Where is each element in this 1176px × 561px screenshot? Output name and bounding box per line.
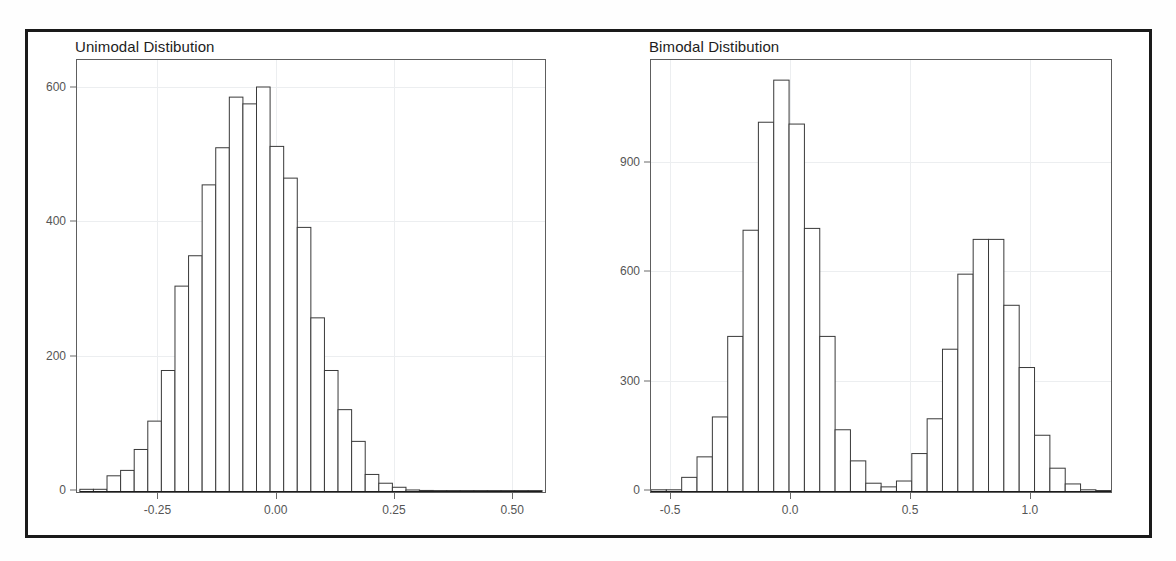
y-tick-label: 0	[30, 483, 66, 497]
y-tick-mark	[70, 86, 76, 87]
x-tick-mark	[512, 493, 513, 499]
histogram-bar	[161, 371, 175, 493]
chart-title-bimodal: Bimodal Distibution	[649, 38, 779, 55]
bar-group	[651, 80, 1111, 492]
y-tick-label: 400	[30, 214, 66, 228]
histogram-bar	[927, 419, 942, 492]
histogram-bar	[1050, 468, 1065, 492]
x-tick-mark	[1030, 493, 1031, 499]
panel-unimodal: Unimodal Distibution 0200400600 -0.250.0…	[28, 32, 590, 535]
histogram-bar	[257, 87, 271, 492]
figure-outer-frame: Unimodal Distibution 0200400600 -0.250.0…	[25, 29, 1152, 538]
histogram-bar	[743, 230, 758, 492]
x-tick-mark	[276, 493, 277, 499]
histogram-bar	[311, 318, 325, 492]
histogram-bar	[365, 474, 379, 492]
histogram-bar	[1035, 435, 1050, 492]
histogram-bar	[912, 454, 927, 492]
plot-area-unimodal	[76, 59, 546, 493]
histogram-bar	[942, 349, 957, 492]
y-tick-mark	[644, 162, 650, 163]
histogram-bar	[1019, 368, 1034, 492]
histogram-bar	[973, 239, 988, 492]
histogram-bar	[270, 146, 284, 492]
y-tick-label: 200	[30, 349, 66, 363]
histogram-bar	[820, 336, 835, 492]
histogram-bar	[216, 148, 230, 492]
y-tick-mark	[644, 380, 650, 381]
y-tick-label: 900	[604, 155, 640, 169]
histogram-bar	[866, 483, 881, 492]
y-tick-mark	[644, 490, 650, 491]
x-tick-label: 1.0	[1022, 503, 1039, 517]
histogram-bar	[1065, 484, 1080, 492]
y-tick-mark	[70, 355, 76, 356]
histogram-bar	[804, 228, 819, 492]
x-tick-label: 0.50	[501, 503, 524, 517]
chart-title-unimodal: Unimodal Distibution	[75, 38, 215, 55]
histogram-bar	[697, 457, 712, 492]
x-tick-label: -0.5	[660, 503, 681, 517]
figure-screenshot: Unimodal Distibution 0200400600 -0.250.0…	[0, 0, 1176, 561]
y-tick-label: 0	[604, 483, 640, 497]
histogram-bar	[189, 256, 203, 492]
histogram-bar	[758, 122, 773, 492]
histogram-bar	[297, 227, 311, 492]
x-tick-mark	[394, 493, 395, 499]
y-tick-mark	[644, 271, 650, 272]
x-tick-label: -0.25	[144, 503, 171, 517]
histogram-bars-bimodal	[651, 60, 1111, 492]
y-tick-mark	[70, 490, 76, 491]
histogram-bar	[896, 481, 911, 492]
x-tick-label: 0.00	[264, 503, 287, 517]
bar-group	[80, 87, 542, 492]
x-tick-mark	[790, 493, 791, 499]
histogram-bar	[175, 286, 189, 492]
histogram-bar	[958, 274, 973, 492]
histogram-bar	[352, 441, 366, 492]
x-tick-mark	[910, 493, 911, 499]
histogram-bar	[789, 124, 804, 492]
x-tick-mark	[670, 493, 671, 499]
histogram-bar	[202, 185, 216, 492]
x-tick-mark	[157, 493, 158, 499]
histogram-bar	[774, 80, 789, 492]
histogram-bar	[835, 430, 850, 492]
histogram-bar	[229, 97, 243, 492]
histogram-bar	[121, 470, 135, 492]
y-tick-label: 600	[30, 80, 66, 94]
histogram-bars-unimodal	[77, 60, 545, 492]
histogram-bar	[850, 461, 865, 492]
y-tick-label: 300	[604, 374, 640, 388]
histogram-bar	[379, 483, 393, 492]
histogram-bar	[324, 371, 338, 493]
histogram-bar	[1004, 305, 1019, 492]
histogram-bar	[712, 417, 727, 492]
y-tick-mark	[70, 221, 76, 222]
histogram-bar	[989, 239, 1004, 492]
histogram-bar	[682, 477, 697, 492]
x-tick-label: 0.0	[782, 503, 799, 517]
histogram-bar	[134, 449, 148, 492]
histogram-bar	[107, 476, 121, 492]
x-tick-label: 0.25	[382, 503, 405, 517]
histogram-bar	[728, 336, 743, 492]
panel-bimodal: Bimodal Distibution 0300600900 -0.50.00.…	[603, 32, 1155, 535]
y-tick-label: 600	[604, 264, 640, 278]
histogram-bar	[284, 178, 298, 492]
plot-area-bimodal	[650, 59, 1112, 493]
histogram-bar	[243, 104, 257, 492]
histogram-bar	[338, 410, 352, 492]
histogram-bar	[148, 421, 162, 492]
x-tick-label: 0.5	[902, 503, 919, 517]
